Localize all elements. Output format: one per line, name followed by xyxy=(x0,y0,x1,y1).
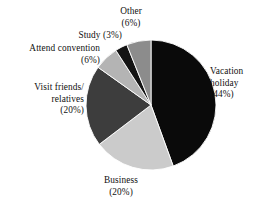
slice-label-visit-line1: Visit friends/ xyxy=(4,82,84,94)
slice-label-vacation-line2: holiday xyxy=(210,78,266,90)
slice-label-business-line1: Business xyxy=(84,175,158,187)
slice-label-visit-line2: relatives xyxy=(4,94,84,106)
slice-label-other-line1: Other xyxy=(100,6,162,18)
pie-slice-group xyxy=(86,40,216,170)
slice-label-other-line2: (6%) xyxy=(100,18,162,30)
slice-label-vacation-holiday: Vacation holiday (44%) xyxy=(210,66,266,101)
pie-chart-figure: Other (6%) Study (3%) Attend convention … xyxy=(0,0,266,211)
slice-label-study: Study (3%) xyxy=(22,30,122,42)
slice-label-attend-convention: Attend convention (6%) xyxy=(8,43,100,66)
slice-label-study-line1: Study (3%) xyxy=(22,30,122,42)
slice-label-business: Business (20%) xyxy=(84,175,158,198)
slice-label-visit-friends-relatives: Visit friends/ relatives (20%) xyxy=(4,82,84,117)
slice-label-attend-convention-line1: Attend convention xyxy=(8,43,100,55)
slice-label-vacation-line1: Vacation xyxy=(210,66,266,78)
slice-label-visit-line3: (20%) xyxy=(4,105,84,117)
slice-label-other: Other (6%) xyxy=(100,6,162,29)
slice-label-business-line2: (20%) xyxy=(84,187,158,199)
slice-label-vacation-line3: (44%) xyxy=(210,89,266,101)
slice-label-attend-convention-line2: (6%) xyxy=(8,55,100,67)
